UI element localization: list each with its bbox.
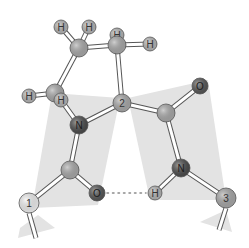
atom-label: H <box>151 188 158 199</box>
atom-label: 1 <box>26 198 32 209</box>
atom-c-beta <box>108 36 126 54</box>
atom-h2: H <box>82 20 96 34</box>
plane-right <box>128 80 226 200</box>
atom-h-n3: H <box>148 186 162 200</box>
atom-o-1: O <box>89 185 105 201</box>
atom-c-gamma <box>70 39 88 57</box>
atom-label: O <box>93 188 101 199</box>
atom-h1: H <box>54 20 68 34</box>
atom-c-carbonyl-1 <box>61 161 79 179</box>
plane-bottom-right <box>200 210 232 232</box>
atom-c-carbonyl-2 <box>157 104 175 122</box>
atom-n-1: N <box>70 116 88 134</box>
atom-label: H <box>57 95 64 106</box>
atom-h5: H <box>22 89 36 103</box>
atom-h4: H <box>143 37 157 51</box>
atom-label: N <box>177 163 184 174</box>
atom-calpha-3: 3 <box>216 188 236 208</box>
atom-o-2: O <box>192 78 208 94</box>
atom-label: H <box>146 39 153 50</box>
atom-label: H <box>25 91 32 102</box>
atom-shading <box>157 104 175 122</box>
atom-label: 3 <box>223 193 229 204</box>
atom-shading <box>61 161 79 179</box>
atom-calpha-1: 1 <box>19 193 39 213</box>
atom-label: 2 <box>119 98 125 109</box>
atom-label: N <box>75 120 82 131</box>
molecule-diagram: HHHHHHN2OO1NH3 <box>0 0 249 248</box>
atom-h6: H <box>54 93 68 107</box>
atom-shading <box>108 36 126 54</box>
atom-calpha-2: 2 <box>113 94 131 112</box>
atom-label: O <box>196 81 204 92</box>
atom-shading <box>70 39 88 57</box>
atom-label: H <box>57 22 64 33</box>
atom-n-3: N <box>172 159 190 177</box>
atom-label: H <box>85 22 92 33</box>
